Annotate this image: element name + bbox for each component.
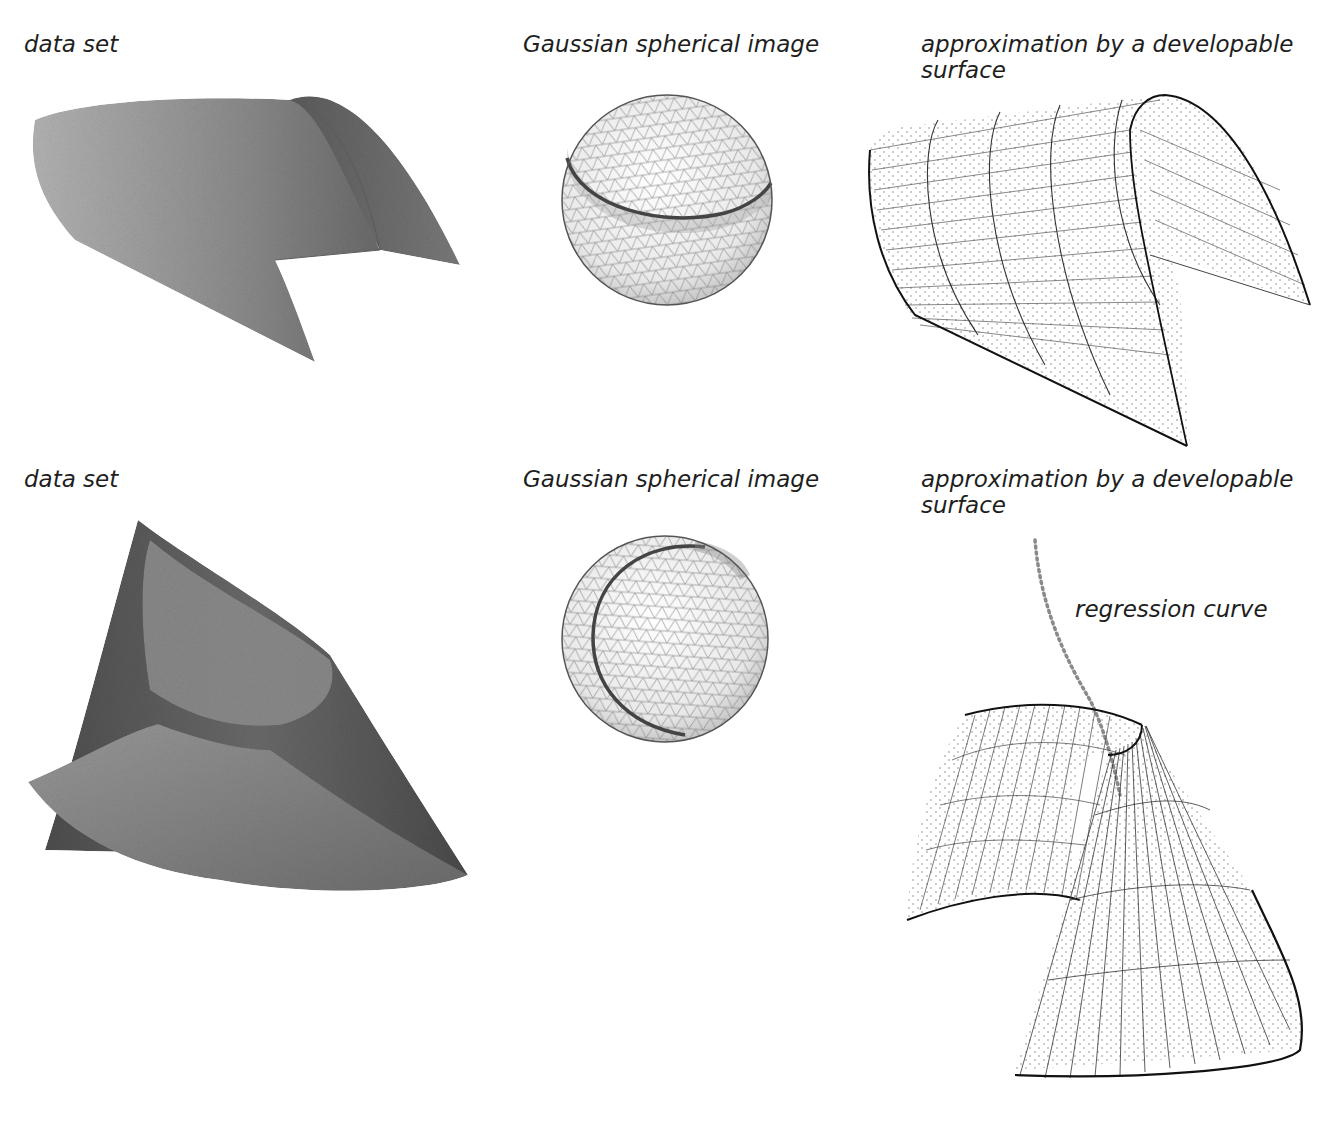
label-data-set-1: data set: [24, 31, 118, 57]
label-approximation-2: approximation by a developable surface: [921, 466, 1293, 518]
cone-approximation-figure: [880, 530, 1319, 1090]
cylinder-approximation-figure: [860, 90, 1319, 450]
label-gaussian-image-1: Gaussian spherical image: [523, 31, 819, 57]
cylinder-data-set-figure: [0, 60, 480, 380]
label-gaussian-image-2: Gaussian spherical image: [523, 466, 819, 492]
cone-data-set-figure: [0, 510, 480, 910]
gaussian-sphere-1: [555, 88, 785, 318]
label-approximation-1: approximation by a developable surface: [921, 31, 1293, 83]
label-data-set-2: data set: [24, 466, 118, 492]
gaussian-sphere-2: [555, 535, 785, 750]
